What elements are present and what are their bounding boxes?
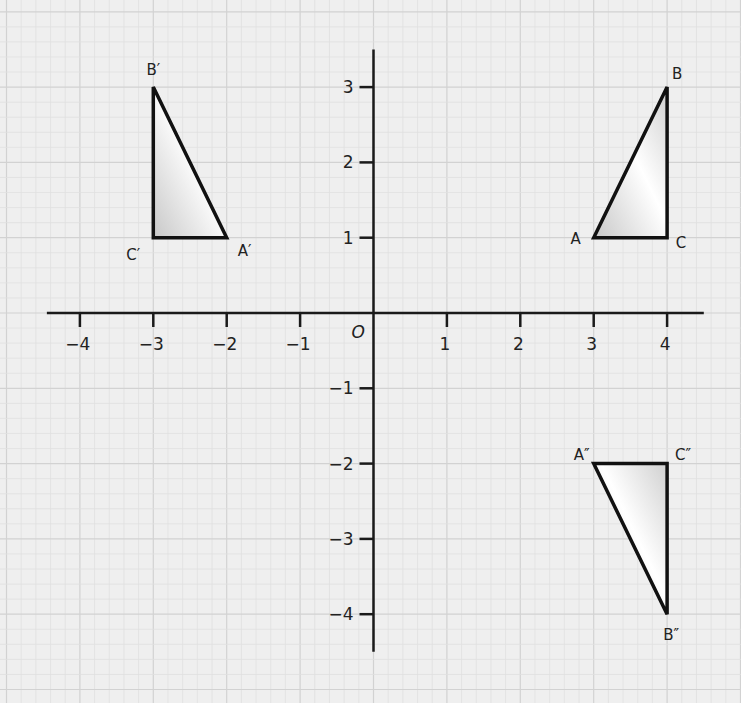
x-tick-label: 1 [439,334,450,354]
y-tick-label: 2 [343,152,354,172]
x-tick-label: −3 [139,334,164,354]
x-tick-label: 2 [513,334,524,354]
y-tick-label: −2 [328,454,353,474]
vertex-label: C″ [675,446,691,464]
triangles: ABCA′B′C′A″B″C″ [126,61,691,644]
plane-svg: −4−3−2−11234321−1−2−3−4 O ABCA′B′C′A″B″C… [0,0,741,703]
y-tick-label: 1 [343,228,354,248]
vertex-label: C′ [126,246,140,264]
origin-label: O [352,322,365,342]
y-tick-label: 3 [343,77,354,97]
x-tick-label: −1 [286,334,311,354]
triangle-ABC: ABC [571,65,687,252]
x-tick-label: 4 [660,334,671,354]
coordinate-plane: −4−3−2−11234321−1−2−3−4 O ABCA′B′C′A″B″C… [0,0,741,703]
vertex-label: B′ [146,61,160,79]
vertex-label: C [676,234,686,252]
vertex-label: A [571,230,582,248]
vertex-label: B″ [663,626,679,644]
x-tick-label: 3 [586,334,597,354]
vertex-label: A′ [238,242,252,260]
x-tick-label: −4 [65,334,90,354]
x-tick-label: −2 [212,334,237,354]
grid-lines [0,0,741,703]
y-tick-label: −1 [328,378,353,398]
vertex-label: B [672,65,682,83]
y-tick-label: −4 [328,604,353,624]
vertex-label: A″ [574,446,590,464]
y-tick-label: −3 [328,529,353,549]
